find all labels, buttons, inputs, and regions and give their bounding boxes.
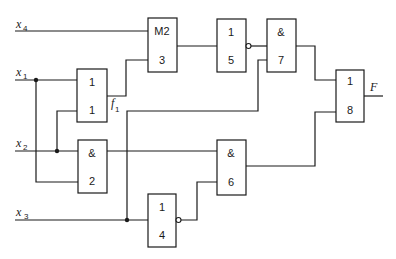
svg-text:1: 1 bbox=[115, 105, 120, 114]
svg-text:x: x bbox=[15, 65, 22, 79]
junction-x1 bbox=[34, 78, 38, 82]
svg-text:2: 2 bbox=[89, 175, 95, 187]
svg-text:1: 1 bbox=[228, 26, 234, 38]
inverter-bubble-g4 bbox=[176, 218, 181, 223]
wire-g6-to-g8 bbox=[246, 112, 336, 166]
svg-text:&: & bbox=[277, 26, 285, 38]
svg-text:1: 1 bbox=[159, 201, 165, 213]
svg-text:x: x bbox=[15, 205, 22, 219]
svg-text:x: x bbox=[15, 136, 22, 150]
gate-7: & 7 bbox=[267, 19, 296, 72]
logic-circuit-diagram: x 4 x 1 x 2 x 3 1 1 & 2 M2 bbox=[0, 0, 396, 259]
svg-text:&: & bbox=[227, 147, 235, 159]
svg-text:8: 8 bbox=[347, 104, 353, 116]
gate-3: M2 3 bbox=[148, 18, 177, 72]
intermediate-label-f1: f 1 bbox=[111, 96, 120, 114]
svg-text:M2: M2 bbox=[154, 25, 169, 37]
inverter-bubble-g5 bbox=[246, 44, 251, 49]
svg-text:4: 4 bbox=[159, 229, 165, 241]
svg-text:&: & bbox=[88, 147, 96, 159]
junction-x3 bbox=[125, 218, 129, 222]
output-label-F: F bbox=[369, 80, 378, 94]
wire-g4-to-g6 bbox=[180, 182, 217, 220]
svg-text:4: 4 bbox=[23, 24, 28, 33]
svg-text:6: 6 bbox=[228, 176, 234, 188]
gate-6: & 6 bbox=[217, 140, 246, 195]
gate-5: 1 5 bbox=[217, 19, 251, 72]
svg-text:1: 1 bbox=[347, 75, 353, 87]
svg-text:1: 1 bbox=[89, 104, 95, 116]
gate-4: 1 4 bbox=[148, 194, 181, 247]
svg-text:7: 7 bbox=[278, 54, 284, 66]
input-label-x1: x 1 bbox=[15, 65, 28, 81]
wire-g7-to-g8 bbox=[296, 46, 336, 80]
wire-x2-to-g1 bbox=[57, 111, 77, 151]
input-label-x3: x 3 bbox=[15, 205, 29, 221]
svg-text:5: 5 bbox=[228, 54, 234, 66]
svg-text:1: 1 bbox=[89, 76, 95, 88]
gate-8: 1 8 bbox=[336, 70, 364, 122]
svg-text:x: x bbox=[15, 17, 22, 31]
input-label-x2: x 2 bbox=[15, 136, 28, 152]
wire-g1-to-g3 bbox=[107, 60, 148, 96]
svg-text:3: 3 bbox=[159, 54, 165, 66]
gate-1: 1 1 bbox=[77, 69, 107, 122]
junction-x2 bbox=[55, 149, 59, 153]
gate-2: & 2 bbox=[78, 140, 107, 193]
